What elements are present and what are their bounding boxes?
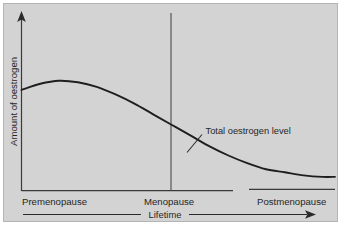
x-tick-label-premenopause: Premenopause: [22, 196, 87, 207]
x-axis-title: Lifetime: [149, 209, 182, 220]
figure-container: Total oestrogen level Amount of oestroge…: [0, 0, 342, 237]
chart-plate: Total oestrogen level Amount of oestroge…: [3, 3, 338, 222]
lifetime-axis-arrow: Lifetime: [23, 209, 316, 220]
x-axis: [22, 189, 336, 190]
x-tick-label-menopause: Menopause: [144, 196, 194, 207]
curve-annotation-label: Total oestrogen level: [206, 126, 291, 136]
y-axis-title: Amount of oestrogen: [8, 57, 19, 146]
oestrogen-lifetime-chart: Total oestrogen level Amount of oestroge…: [4, 4, 337, 221]
x-tick-label-postmenopause: Postmenopause: [257, 196, 326, 207]
